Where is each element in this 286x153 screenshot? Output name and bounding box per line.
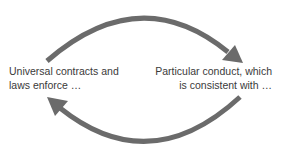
node-universal-contracts: Universal contracts and laws enforce … xyxy=(9,64,119,92)
cycle-diagram: Universal contracts and laws enforce … P… xyxy=(0,0,286,153)
node-left-line-2: laws enforce … xyxy=(9,78,119,92)
node-left-line-1: Universal contracts and xyxy=(9,64,119,78)
top-arrow xyxy=(47,18,243,63)
node-particular-conduct: Particular conduct, which is consistent … xyxy=(155,64,272,92)
node-right-line-1: Particular conduct, which xyxy=(155,64,272,78)
bottom-arrow xyxy=(47,97,240,141)
node-right-line-2: is consistent with … xyxy=(155,78,272,92)
